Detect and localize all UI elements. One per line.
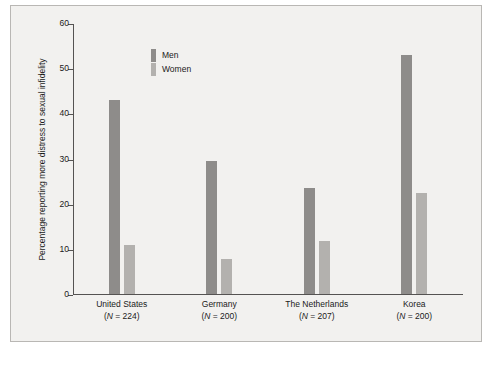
x-axis-group-label: Korea(N = 200) xyxy=(349,299,479,322)
legend-swatch-icon xyxy=(151,63,156,76)
bar-group: The Netherlands(N = 207) xyxy=(268,23,366,294)
bar-women xyxy=(319,241,330,294)
y-tick-label: 30 xyxy=(60,154,69,164)
figure: Percentage reporting more distress to se… xyxy=(0,0,498,377)
y-tick-label: 0 xyxy=(64,289,69,299)
legend-swatch-icon xyxy=(151,49,156,62)
y-tick-label: 10 xyxy=(60,244,69,254)
y-tick-label: 60 xyxy=(60,18,69,28)
y-tick-label: 40 xyxy=(60,108,69,118)
y-tick-label: 50 xyxy=(60,63,69,73)
bar-group: Korea(N = 200) xyxy=(366,23,464,294)
y-axis-title: Percentage reporting more distress to se… xyxy=(35,24,49,295)
x-axis-line xyxy=(73,294,463,295)
bar-women xyxy=(124,245,135,294)
bar-men xyxy=(109,100,120,294)
legend: Men Women xyxy=(151,48,191,76)
bar-women xyxy=(221,259,232,294)
legend-item-men: Men xyxy=(151,48,191,62)
plot-frame: Percentage reporting more distress to se… xyxy=(10,5,482,342)
plot-area: 0102030405060 United States(N = 224)Germ… xyxy=(73,24,463,295)
bar-men xyxy=(401,55,412,294)
legend-label-women: Women xyxy=(162,64,191,74)
bar-men xyxy=(304,188,315,294)
bar-men xyxy=(206,161,217,294)
bar-women xyxy=(416,193,427,294)
legend-label-men: Men xyxy=(162,50,179,60)
y-tick-label: 20 xyxy=(60,199,69,209)
legend-item-women: Women xyxy=(151,62,191,76)
